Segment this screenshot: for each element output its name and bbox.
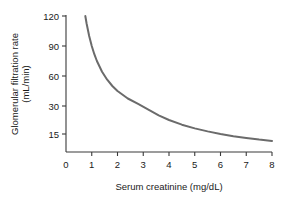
chart-canvas: 12090603015 012345678 Serum creatinine (… <box>0 0 289 201</box>
x-tick-label: 0 <box>63 159 68 170</box>
x-axis-title: Serum creatinine (mg/dL) <box>115 181 222 192</box>
x-tick-label: 5 <box>192 159 197 170</box>
x-tick-label: 8 <box>269 159 274 170</box>
y-tick-label: 120 <box>43 11 59 22</box>
x-tick-label: 4 <box>166 159 171 170</box>
y-axis-title-line2: (mL/min) <box>20 65 31 102</box>
y-axis-ticks: 12090603015 <box>43 11 66 140</box>
x-tick-label: 6 <box>218 159 223 170</box>
x-tick-label: 7 <box>244 159 249 170</box>
y-tick-label: 60 <box>48 71 59 82</box>
x-tick-label: 3 <box>141 159 146 170</box>
y-tick-label: 30 <box>48 101 59 112</box>
y-tick-label: 15 <box>48 129 59 140</box>
y-tick-label: 90 <box>48 41 59 52</box>
x-tick-label: 2 <box>115 159 120 170</box>
chart-figure: 12090603015 012345678 Serum creatinine (… <box>0 0 289 201</box>
y-axis-title-line1: Glomerular filtration rate <box>9 33 20 135</box>
gfr-creatinine-curve <box>85 16 272 141</box>
x-tick-label: 1 <box>89 159 94 170</box>
x-axis-ticks: 012345678 <box>63 152 274 170</box>
